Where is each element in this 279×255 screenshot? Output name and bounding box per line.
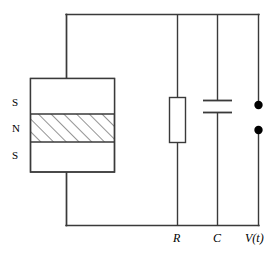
output-terminal-dot-upper [254,101,262,109]
magnet-pole-label-north: N [12,123,20,134]
capacitor-branch [203,15,232,226]
magnet-pole-label-south-top: S [12,97,18,108]
resistor-symbol [170,98,186,143]
capacitor-label: C [213,232,221,244]
resistor-branch [170,15,186,226]
output-terminal-pair [254,101,262,134]
circuit-schematic-svg [0,0,279,255]
output-terminal-dot-lower [254,126,262,134]
magnet-layer-north-hatched [31,114,115,142]
layered-magnet-body [31,79,115,173]
circuit-diagram-figure: S N S R C V(t) [0,0,279,255]
resistor-label: R [173,232,180,244]
output-voltage-label: V(t) [245,232,264,244]
magnet-pole-label-south-bottom: S [12,150,18,161]
magnet-layer-south-top [31,79,115,115]
